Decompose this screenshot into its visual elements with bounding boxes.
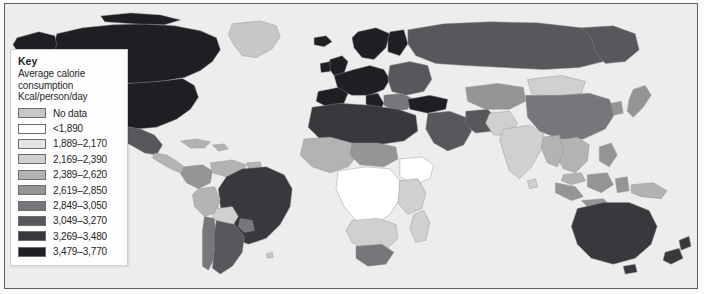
legend-swatch <box>18 154 46 164</box>
region-tasmania <box>623 264 637 274</box>
region-sri-lanka <box>527 179 537 189</box>
legend-item-label: 3,049–3,270 <box>53 215 107 226</box>
legend-item: 2,849–3,050 <box>18 198 121 213</box>
region-ireland <box>320 62 330 73</box>
legend-subtitle-line-3: Kcal/person/day <box>18 91 121 103</box>
legend-item: 2,619–2,850 <box>18 182 121 197</box>
legend-swatch <box>18 170 46 180</box>
legend-item-label: 1,889–2,170 <box>53 138 107 149</box>
legend-swatch <box>18 201 46 211</box>
map-figure: .ln { stroke:#8e9092; stroke-width:0.45;… <box>0 0 704 294</box>
legend-subtitle-line-2: consumption <box>18 80 121 92</box>
legend-swatch <box>18 247 46 257</box>
legend-item: 2,169–2,390 <box>18 152 121 167</box>
legend-item-label: <1,890 <box>53 123 83 134</box>
legend-item-label: 3,479–3,770 <box>53 246 107 257</box>
legend-item: 3,049–3,270 <box>18 213 121 228</box>
figure-frame: .ln { stroke:#8e9092; stroke-width:0.45;… <box>4 3 698 289</box>
legend-item-list: No data <1,890 1,889–2,170 2,169–2,390 2… <box>18 106 121 260</box>
legend-item-label: 3,269–3,480 <box>53 231 107 242</box>
legend-swatch <box>18 124 46 134</box>
legend-item: <1,890 <box>18 121 121 136</box>
legend-swatch <box>18 231 46 241</box>
region-sulawesi <box>615 177 629 193</box>
legend-item-label: 2,389–2,620 <box>53 169 107 180</box>
legend-swatch <box>18 139 46 149</box>
region-korea <box>611 101 623 115</box>
legend-subtitle-line-1: Average calorie <box>18 68 121 80</box>
map-legend: Key Average calorie consumption Kcal/per… <box>10 49 128 266</box>
legend-item: No data <box>18 106 121 121</box>
legend-swatch <box>18 108 46 118</box>
legend-item: 2,389–2,620 <box>18 167 121 182</box>
legend-swatch <box>18 185 46 195</box>
legend-item-label: 2,619–2,850 <box>53 185 107 196</box>
legend-item-label: 2,849–3,050 <box>53 200 107 211</box>
legend-item: 3,479–3,770 <box>18 244 121 259</box>
legend-item-label: No data <box>53 108 87 119</box>
legend-item-label: 2,169–2,390 <box>53 154 107 165</box>
legend-swatch <box>18 216 46 226</box>
legend-item: 1,889–2,170 <box>18 136 121 151</box>
legend-item: 3,269–3,480 <box>18 229 121 244</box>
legend-title: Key <box>18 55 121 67</box>
